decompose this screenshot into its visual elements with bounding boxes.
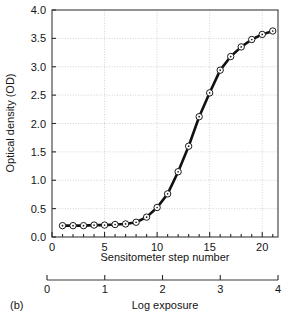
data-point-center-dot: [146, 216, 148, 218]
data-point-center-dot: [240, 46, 242, 48]
y-tick-label: 1.0: [31, 174, 46, 186]
data-point-center-dot: [188, 145, 190, 147]
data-point-markers: [59, 28, 276, 229]
secondary-tick-label: 2: [159, 283, 165, 295]
secondary-x-axis-log-exposure: 01234: [44, 275, 281, 295]
y-tick-label: 4.0: [31, 4, 46, 16]
secondary-tick-label: 1: [102, 283, 108, 295]
y-tick-label: 3.0: [31, 61, 46, 73]
figure-panel-b: 0.00.51.01.52.02.53.03.54.0 05101520 Opt…: [0, 0, 291, 319]
y-axis-title: Optical density (OD): [4, 73, 16, 172]
secondary-tick-label: 3: [217, 283, 223, 295]
secondary-tick-label: 4: [275, 283, 281, 295]
data-point-center-dot: [93, 224, 95, 226]
panel-label: (b): [10, 299, 23, 311]
x-axis-title: Sensitometer step number: [100, 251, 229, 263]
y-tick-label: 0.0: [31, 231, 46, 243]
characteristic-curve-chart: 0.00.51.01.52.02.53.03.54.0 05101520 Opt…: [0, 0, 291, 319]
data-point-center-dot: [135, 221, 137, 223]
data-point-center-dot: [156, 207, 158, 209]
data-point-center-dot: [167, 193, 169, 195]
secondary-tick-label: 0: [44, 283, 50, 295]
data-point-center-dot: [198, 116, 200, 118]
data-point-center-dot: [272, 30, 274, 32]
y-tick-label: 2.0: [31, 118, 46, 130]
secondary-x-axis-title: Log exposure: [132, 299, 199, 311]
data-point-center-dot: [219, 69, 221, 71]
y-tick-label: 1.5: [31, 146, 46, 158]
data-point-center-dot: [104, 224, 106, 226]
y-tick-label: 2.5: [31, 89, 46, 101]
data-point-center-dot: [177, 171, 179, 173]
x-tick-label: 20: [256, 241, 268, 253]
data-point-center-dot: [261, 34, 263, 36]
data-point-center-dot: [62, 225, 64, 227]
secondary-axis-ticks: 01234: [44, 275, 281, 295]
y-tick-label: 3.5: [31, 32, 46, 44]
data-point-center-dot: [83, 225, 85, 227]
data-point-center-dot: [251, 39, 253, 41]
data-point-center-dot: [114, 224, 116, 226]
data-point-center-dot: [72, 225, 74, 227]
data-point-center-dot: [209, 92, 211, 94]
data-point-center-dot: [125, 223, 127, 225]
y-tick-label: 0.5: [31, 203, 46, 215]
x-tick-label: 0: [49, 241, 55, 253]
gridlines-horizontal: [52, 38, 278, 208]
data-point-center-dot: [230, 56, 232, 58]
x-axis: 05101520: [49, 232, 273, 253]
